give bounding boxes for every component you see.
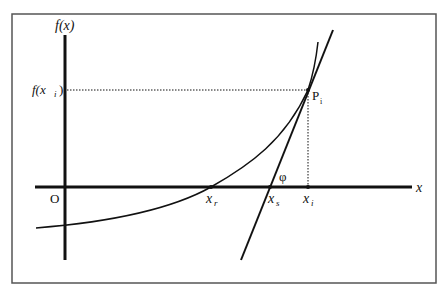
x-axis-label: x bbox=[415, 180, 423, 195]
svg-text:i: i bbox=[311, 198, 314, 208]
angle-phi-label: φ bbox=[279, 169, 287, 184]
diagram-frame bbox=[12, 14, 436, 283]
f-xi-label: f(x i ) bbox=[32, 82, 63, 99]
svg-text:s: s bbox=[276, 198, 280, 208]
root-point-xr bbox=[209, 185, 213, 189]
point-pi bbox=[306, 88, 310, 92]
svg-text:P: P bbox=[312, 88, 319, 103]
svg-text:x: x bbox=[205, 191, 213, 206]
svg-text:r: r bbox=[214, 198, 218, 208]
svg-text:x: x bbox=[267, 191, 275, 206]
origin-label: O bbox=[50, 191, 59, 206]
svg-text:i: i bbox=[320, 97, 323, 106]
svg-text:f(x: f(x bbox=[32, 82, 46, 97]
xs-label: x s bbox=[267, 191, 280, 208]
xi-label: x i bbox=[302, 191, 314, 208]
xr-label: x r bbox=[205, 191, 218, 208]
y-axis-label: f(x) bbox=[55, 18, 75, 34]
tangent-intercept-xs bbox=[268, 185, 272, 189]
newton-method-diagram: f(x) x O f(x i ) P i x r x s x i φ bbox=[0, 0, 446, 296]
point-pi-label: P i bbox=[312, 88, 323, 106]
tangent-line bbox=[241, 30, 333, 260]
xi-point bbox=[306, 185, 310, 189]
svg-text:): ) bbox=[59, 82, 63, 97]
svg-text:x: x bbox=[302, 191, 310, 206]
svg-text:i: i bbox=[54, 89, 57, 99]
